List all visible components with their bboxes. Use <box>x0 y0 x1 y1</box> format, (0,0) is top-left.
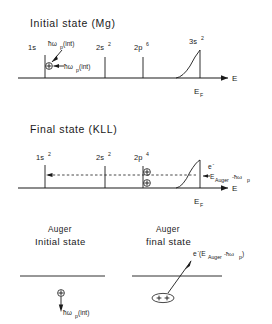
auger-energy-label-sub: Auger <box>215 177 229 183</box>
hole-symbol-final-upper <box>144 169 151 176</box>
level-label-2s-sup: 2 <box>108 41 111 47</box>
auger-energy-label-tail: -ħω <box>232 174 242 180</box>
plasmon-label-auger-initial-tail: (int) <box>78 309 89 317</box>
auger-electron-sup-final: - <box>213 161 215 167</box>
plasmon-label-upper-main: ħω <box>48 40 57 47</box>
auger-initial-title-line1: Auger <box>48 225 72 234</box>
auger-energy-arrow-head <box>203 174 208 178</box>
auger-electron-label-close: ) <box>242 250 244 258</box>
fermi-label-sub-initial: F <box>200 92 203 98</box>
fermi-label-sub-final: F <box>200 202 203 208</box>
level-label-3s-text: 3s <box>189 37 197 46</box>
auger-electron-e-final: e <box>208 163 212 170</box>
auger-transition-arrowhead <box>46 173 53 177</box>
fermi-level-label-initial: E F <box>194 87 203 98</box>
plasmon-arrow-lower-initial <box>54 64 65 68</box>
level-label-2p-text: 2p <box>134 43 142 52</box>
hole-symbol-auger-initial <box>58 290 65 297</box>
level-label-3s: 3s 2 <box>189 35 204 46</box>
auger-electron-label-sub: Auger <box>208 254 222 260</box>
final-state-title: Final state (KLL) <box>30 123 117 135</box>
fermi-label-text-initial: E <box>194 87 199 96</box>
level-label-1s-final-text: 1s <box>36 153 44 162</box>
auger-electron-label-tail: -ħω <box>224 251 234 257</box>
fermi-level-label-final: E F <box>194 197 203 208</box>
level-label-2p-sup: 6 <box>146 41 149 47</box>
plasmon-arrow-lower-head <box>54 64 60 68</box>
level-label-2s-final-text: 2s <box>96 153 104 162</box>
panel-auger-initial: Auger Initial state ħω p (int) <box>20 225 105 319</box>
level-label-1s-final-sup: 2 <box>48 151 51 157</box>
level-label-2p: 2p 6 <box>134 41 149 52</box>
initial-axis-arrowhead <box>221 75 228 81</box>
panel-initial-state: Initial state (Mg) E 1s 2s 2 2p 6 <box>18 17 237 98</box>
final-axis-label: E <box>232 184 237 193</box>
valence-band-curve-initial <box>176 50 200 78</box>
level-label-2s-final: 2s 2 <box>96 151 111 162</box>
auger-electron-label-open: (E <box>199 250 206 258</box>
auger-final-title-line2: final state <box>146 236 191 247</box>
auger-electron-arrow-final <box>168 260 192 293</box>
initial-axis-label: E <box>232 74 237 83</box>
level-label-2p-final-sup: 4 <box>146 151 149 157</box>
level-label-1s-text: 1s <box>28 43 36 52</box>
valence-band-curve-final <box>176 160 200 188</box>
plasmon-label-auger-initial: ħω p (int) <box>63 309 89 319</box>
level-label-1s-final: 1s 2 <box>36 151 51 162</box>
energy-level-diagram: Initial state (Mg) E 1s 2s 2 2p 6 <box>0 0 272 324</box>
plasmon-label-upper-tail: (int) <box>63 40 74 48</box>
initial-state-title: Initial state (Mg) <box>30 17 116 29</box>
panel-final-state: Final state (KLL) E 1s 2 2s 2 <box>18 123 250 208</box>
diagram-canvas: Initial state (Mg) E 1s 2s 2 2p 6 <box>0 0 272 324</box>
plasmon-label-upper-initial: ħω p (int) <box>48 40 74 50</box>
fermi-label-text-final: E <box>194 197 199 206</box>
auger-electron-label-e: e <box>193 250 197 257</box>
plasmon-arrow-upper-initial <box>52 50 62 62</box>
level-label-2s-final-sup: 2 <box>108 151 111 157</box>
auger-electron-energy-label: e - (E Auger -ħω p ) <box>193 248 244 260</box>
level-label-2p-final-text: 2p <box>134 153 142 162</box>
double-hole-ellipse <box>152 293 174 302</box>
auger-energy-arrow-final <box>203 174 210 178</box>
plasmon-label-auger-initial-main: ħω <box>63 309 72 316</box>
level-label-2p-final: 2p 4 <box>134 151 149 162</box>
plasmon-label-lower-main: ħω <box>64 63 73 70</box>
double-hole-symbol-auger-final <box>152 293 174 302</box>
level-label-2s: 2s 2 <box>96 41 111 52</box>
level-label-2s-text: 2s <box>96 43 104 52</box>
hole-symbol-final-lower <box>144 180 151 187</box>
panel-auger-final: Auger final state e - (E <box>132 225 244 303</box>
plasmon-label-lower-initial: ħω p (int) <box>64 63 90 73</box>
final-axis-arrowhead <box>221 185 228 191</box>
level-label-1s: 1s <box>28 43 36 52</box>
plasmon-label-lower-tail: (int) <box>79 63 90 71</box>
level-label-3s-sup: 2 <box>201 35 204 41</box>
auger-energy-label-final: E Auger -ħω p <box>210 173 250 183</box>
auger-energy-label-tail-sub: p <box>247 177 250 183</box>
hole-symbol-initial <box>46 63 53 70</box>
auger-initial-title-line2: Initial state <box>35 236 86 247</box>
auger-final-title-line1: Auger <box>156 225 180 234</box>
auger-electron-symbol-final: e - <box>208 161 215 171</box>
